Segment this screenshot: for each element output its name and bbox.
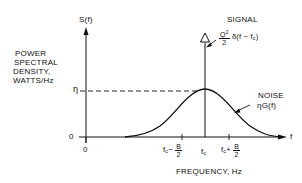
fc-sub: c bbox=[203, 150, 206, 156]
frac-den: 2 bbox=[219, 39, 230, 46]
y-axis-symbol: S(f) bbox=[79, 15, 93, 24]
y-axis-title-line: DENSITY, bbox=[13, 67, 57, 76]
y-axis-title: POWER SPECTRAL DENSITY, WATTS/Hz bbox=[13, 49, 57, 85]
x-axis-symbol: f bbox=[290, 132, 292, 141]
frac-den: 2 bbox=[233, 151, 240, 158]
noise-title: NOISE bbox=[258, 91, 284, 100]
y-axis-arrow-icon bbox=[84, 27, 89, 35]
q-sup: 2 bbox=[226, 29, 229, 35]
x-tick-zero: 0 bbox=[83, 145, 88, 154]
signal-expression: Q22 δ(f − fc) bbox=[219, 29, 258, 46]
frac-den: 2 bbox=[175, 151, 182, 158]
frac-num: B bbox=[175, 143, 182, 151]
delta-expr: δ(f − f bbox=[232, 32, 253, 41]
y-tick-eta: η bbox=[73, 85, 78, 94]
op: + bbox=[226, 145, 231, 154]
signal-title: SIGNAL bbox=[227, 15, 258, 24]
signal-triangle-icon bbox=[201, 33, 210, 42]
x-axis-title: FREQUENCY, Hz bbox=[176, 167, 242, 176]
y-tick-zero: 0 bbox=[69, 132, 74, 141]
frac-num: B bbox=[233, 143, 240, 151]
y-axis-title-line: SPECTRAL bbox=[14, 58, 58, 67]
x-tick-fc-plus-b2: fc+ B2 bbox=[221, 143, 240, 158]
frac-num: Q2 bbox=[219, 29, 230, 39]
x-tick-fc-minus-b2: fc− B2 bbox=[163, 143, 182, 158]
y-axis-title-line: WATTS/Hz bbox=[13, 76, 57, 85]
noise-expression: ηG(f) bbox=[257, 101, 276, 110]
delta-close: ) bbox=[256, 32, 259, 41]
psd-diagram bbox=[0, 0, 302, 183]
op: − bbox=[168, 145, 173, 154]
y-axis-title-line: POWER bbox=[15, 49, 59, 58]
x-tick-fc: fc bbox=[201, 147, 206, 158]
q2-over-2: Q22 bbox=[219, 29, 230, 46]
b-over-2: B2 bbox=[175, 143, 182, 158]
b-over-2: B2 bbox=[233, 143, 240, 158]
